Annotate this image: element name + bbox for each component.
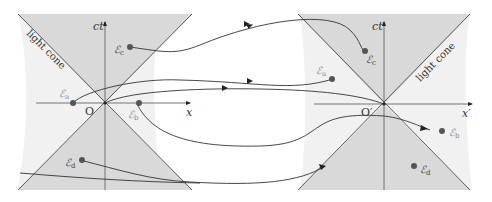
right-event-d-dot bbox=[411, 163, 417, 169]
left-event-c-dot bbox=[127, 44, 133, 50]
left-event-d-dot bbox=[79, 157, 85, 163]
right-origin-label: O′ bbox=[361, 106, 373, 119]
left-space-axis-label: x bbox=[186, 106, 193, 119]
left-origin-label: O bbox=[85, 105, 94, 118]
right-time-axis-label: ct′ bbox=[372, 20, 386, 33]
left-event-b-dot bbox=[136, 100, 142, 106]
right-event-a-dot bbox=[329, 76, 335, 82]
spacetime-mapping-diagram: ct x O light cone ℰc ℰa ℰb ℰd ct′ x′ O′ … bbox=[0, 0, 492, 202]
right-frame-panel bbox=[298, 14, 472, 190]
right-space-axis-label: x′ bbox=[462, 107, 471, 120]
right-event-b-dot bbox=[439, 128, 445, 134]
left-time-axis-label: ct bbox=[93, 20, 104, 33]
left-event-a-dot bbox=[70, 100, 76, 106]
